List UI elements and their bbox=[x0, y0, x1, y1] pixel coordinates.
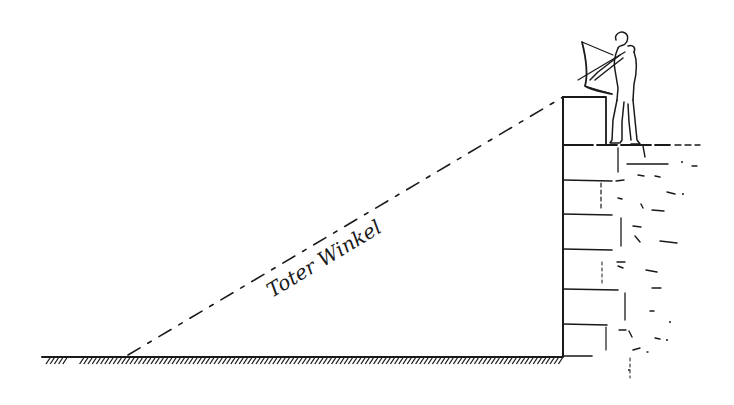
ground-hatching bbox=[46, 358, 562, 364]
illustration: Toter Winkel bbox=[0, 0, 734, 405]
ground bbox=[42, 357, 562, 364]
angle-label-text: Toter Winkel bbox=[262, 215, 385, 302]
archer bbox=[578, 32, 640, 144]
angle-label: Toter Winkel bbox=[262, 215, 385, 302]
sightline bbox=[128, 97, 563, 355]
